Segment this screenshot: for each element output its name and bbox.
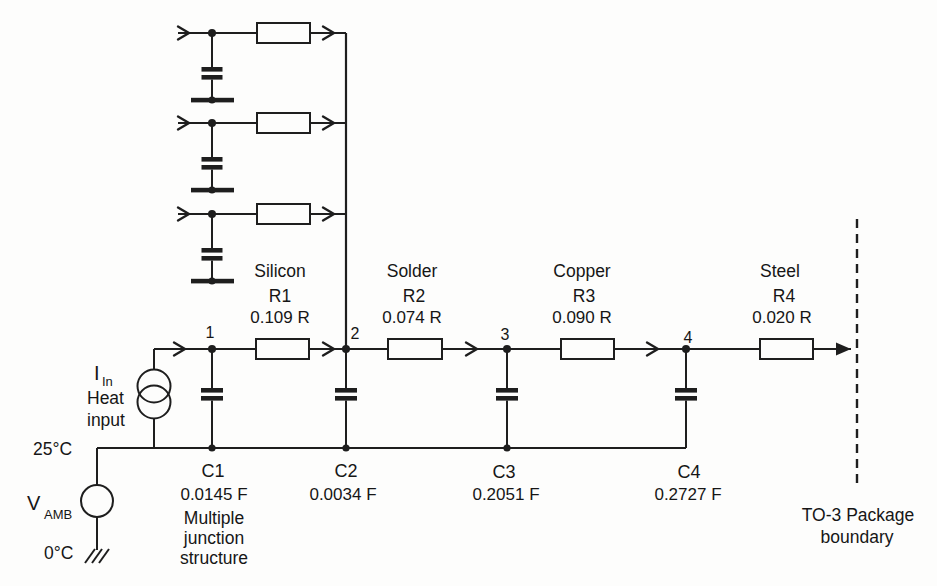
capacitor-c2-plate bbox=[335, 396, 357, 401]
capacitor-value-1: 0.0145 F bbox=[180, 485, 247, 504]
capacitor-plate bbox=[202, 248, 223, 253]
bar-node-dot bbox=[208, 186, 215, 193]
resistor-name-1: R1 bbox=[269, 286, 291, 306]
junction-branch-1 bbox=[178, 23, 346, 104]
branch-resistor bbox=[257, 23, 310, 43]
capacitor-c1-plate bbox=[201, 396, 223, 401]
capacitor-plate bbox=[202, 165, 223, 170]
capacitor-plate bbox=[202, 75, 223, 80]
node-label-3: 3 bbox=[501, 326, 510, 343]
bar-node-dot bbox=[208, 96, 215, 103]
resistor-name-3: R3 bbox=[573, 286, 595, 306]
capacitor-plate bbox=[202, 256, 223, 261]
capacitor-c2-plate bbox=[335, 388, 357, 393]
resistor-r3 bbox=[561, 339, 614, 359]
voltage-source-symbol: V bbox=[27, 492, 41, 514]
capacitor-c4-plate bbox=[675, 396, 697, 401]
material-label-2: Solder bbox=[387, 261, 438, 281]
capacitor-c1-plate bbox=[201, 388, 223, 393]
current-source-subscript: In bbox=[102, 374, 113, 389]
capacitor-value-4: 0.2727 F bbox=[654, 485, 721, 504]
bus-node-dot bbox=[342, 444, 349, 451]
junction-note-1: Multiple bbox=[184, 508, 244, 528]
resistor-value-2: 0.074 R bbox=[382, 308, 442, 327]
resistor-r1 bbox=[256, 339, 309, 359]
capacitor-value-2: 0.0034 F bbox=[309, 485, 376, 504]
resistor-r4 bbox=[760, 339, 813, 359]
voltage-source-subscript: AMB bbox=[44, 507, 72, 522]
node-label-4: 4 bbox=[684, 329, 693, 346]
thermal-circuit-figure: Silicon R1 0.109 R 1 C1 0.0145 F Solder … bbox=[0, 0, 937, 586]
temp-bottom-label: 0°C bbox=[44, 543, 73, 563]
capacitor-value-3: 0.2051 F bbox=[472, 485, 539, 504]
node-label-2: 2 bbox=[351, 325, 360, 342]
branch-resistor bbox=[257, 204, 310, 224]
bar-node-dot bbox=[208, 277, 215, 284]
junction-branch-group bbox=[178, 23, 346, 349]
material-label-3: Copper bbox=[553, 261, 611, 281]
material-label-1: Silicon bbox=[254, 261, 306, 281]
resistor-value-3: 0.090 R bbox=[552, 308, 612, 327]
current-source-symbol: I bbox=[94, 362, 100, 384]
capacitor-name-4: C4 bbox=[677, 462, 700, 482]
labels: Silicon R1 0.109 R 1 C1 0.0145 F Solder … bbox=[27, 261, 914, 568]
heat-caption-2: input bbox=[87, 410, 125, 430]
bus-node-dot bbox=[503, 444, 510, 451]
capacitor-c3-plate bbox=[496, 388, 518, 393]
node-label-1: 1 bbox=[206, 324, 215, 341]
resistor-value-4: 0.020 R bbox=[752, 308, 812, 327]
temp-top-label: 25°C bbox=[33, 439, 72, 459]
shunt-capacitors bbox=[201, 349, 697, 448]
resistor-value-1: 0.109 R bbox=[250, 308, 310, 327]
resistor-name-4: R4 bbox=[773, 286, 796, 306]
resistor-name-2: R2 bbox=[403, 286, 425, 306]
branch-resistor bbox=[257, 113, 310, 133]
capacitor-name-1: C1 bbox=[201, 461, 224, 481]
boundary-note-2: boundary bbox=[821, 527, 894, 547]
heat-current-source bbox=[138, 349, 171, 448]
junction-branch-2 bbox=[178, 113, 346, 194]
capacitor-name-2: C2 bbox=[334, 461, 357, 481]
material-label-4: Steel bbox=[760, 261, 800, 281]
junction-note-2: junction bbox=[183, 528, 244, 548]
return-bus bbox=[97, 444, 686, 451]
ground-icon bbox=[85, 549, 109, 563]
heat-caption-1: Heat bbox=[87, 388, 124, 408]
voltage-source-icon bbox=[81, 485, 113, 517]
capacitor-c3-plate bbox=[496, 396, 518, 401]
capacitor-plate bbox=[202, 157, 223, 162]
thermal-circuit-diagram: Silicon R1 0.109 R 1 C1 0.0145 F Solder … bbox=[0, 0, 937, 586]
junction-note-3: structure bbox=[180, 548, 248, 568]
capacitor-c4-plate bbox=[675, 388, 697, 393]
resistor-r2 bbox=[388, 339, 442, 359]
capacitor-name-3: C3 bbox=[492, 462, 515, 482]
bus-node-dot bbox=[208, 444, 215, 451]
capacitor-plate bbox=[202, 67, 223, 72]
boundary-note-1: TO-3 Package bbox=[802, 505, 915, 525]
output-arrow-icon bbox=[836, 343, 851, 356]
ambient-voltage-source bbox=[81, 448, 113, 563]
